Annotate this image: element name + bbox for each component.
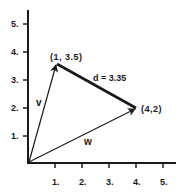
x-tick-label: 4. — [133, 177, 141, 187]
y-tick-label: 4. — [11, 47, 19, 57]
vector-v — [29, 65, 56, 162]
x-tick-label: 3. — [106, 177, 114, 187]
y-tick-label: 2. — [11, 103, 19, 113]
y-tick-label: 1. — [11, 131, 19, 141]
distance-label: d = 3.35 — [93, 73, 126, 83]
point-label-p2: (4,2) — [141, 104, 162, 114]
y-ticks: 1. 2. 3. 4. 5. — [11, 19, 28, 141]
diagram-svg: 1. 2. 3. 4. 5. 1. 2. 3. 4. 5. (1, 3.5) (… — [0, 0, 182, 195]
distance-segment — [57, 64, 136, 108]
x-tick-label: 2. — [79, 177, 87, 187]
vector-distance-diagram: 1. 2. 3. 4. 5. 1. 2. 3. 4. 5. (1, 3.5) (… — [0, 0, 182, 195]
x-tick-label: 1. — [52, 177, 60, 187]
y-tick-label: 5. — [11, 19, 19, 29]
x-tick-label: 5. — [160, 177, 168, 187]
vector-w-label: w — [83, 136, 92, 147]
vector-w — [29, 109, 135, 162]
vector-v-label: v — [36, 97, 42, 108]
y-tick-label: 3. — [11, 75, 19, 85]
x-ticks: 1. 2. 3. 4. 5. — [52, 163, 168, 187]
point-label-p1: (1, 3.5) — [50, 52, 83, 62]
